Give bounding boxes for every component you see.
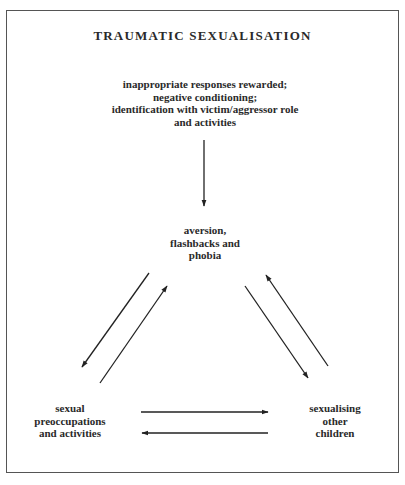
arrow-bottom-left-to-top [100, 286, 167, 383]
arrows-layer [0, 0, 405, 485]
arrow-bottom-right-to-top [266, 275, 328, 366]
arrow-top-to-bottom-left [82, 273, 149, 367]
arrow-top-to-bottom-right [245, 286, 308, 378]
